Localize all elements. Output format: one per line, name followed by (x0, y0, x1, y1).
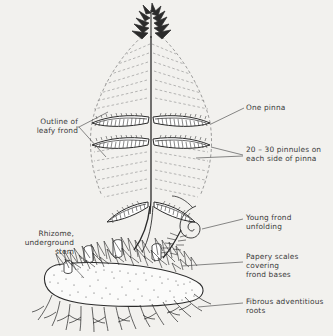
label-papery-scales: Papery scales covering frond bases (246, 252, 331, 280)
fern-diagram (0, 0, 333, 336)
label-one-pinna: One pinna (246, 103, 331, 112)
label-fibrous-adventitious-roots: Fibrous adventitious roots (246, 297, 333, 315)
label-outline-of-leafy-frond: Outline of leafy frond (6, 117, 78, 135)
label-rhizome-underground-stem: Rhizome, underground stem (4, 229, 74, 257)
label-pinnules: 20 – 30 pinnules on each side of pinna (246, 145, 332, 163)
label-young-frond-unfolding: Young frond unfolding (246, 213, 331, 231)
